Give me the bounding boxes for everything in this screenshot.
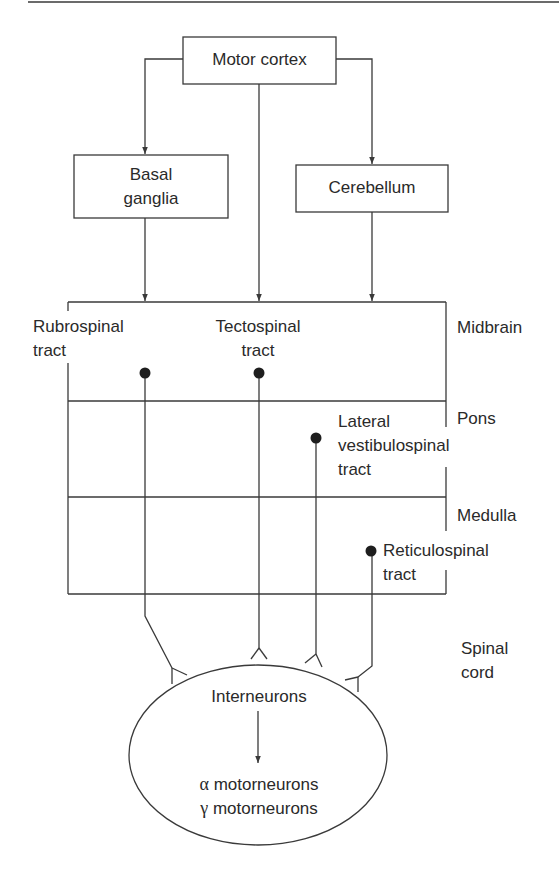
vestibulospinal-line3: tract [338, 458, 450, 482]
gamma-motorneurons-label: γ motorneurons [160, 796, 358, 821]
alpha-motorneurons-label: α motorneurons [160, 772, 358, 797]
basal-ganglia-line1: Basal [74, 163, 228, 187]
basal-ganglia-line2: ganglia [74, 187, 228, 211]
reticulospinal-label: Reticulospinal tract [383, 539, 489, 587]
tectospinal-line1: Tectospinal [198, 315, 318, 339]
reticulospinal-line1: Reticulospinal [383, 539, 489, 563]
region-medulla: Medulla [457, 504, 517, 528]
region-pons: Pons [457, 407, 496, 431]
rubrospinal-line2: tract [33, 339, 124, 363]
interneurons-label: Interneurons [178, 685, 340, 709]
rubrospinal-line1: Rubrospinal [33, 315, 124, 339]
diagram-lines [0, 0, 559, 878]
tectospinal-label: Tectospinal tract [198, 315, 318, 363]
vestibulospinal-label: Lateral vestibulospinal tract [338, 410, 450, 482]
region-spinal-cord: Spinal cord [461, 637, 508, 685]
vestibulospinal-line1: Lateral [338, 410, 450, 434]
motor-cortex-label: Motor cortex [183, 48, 336, 72]
alpha-text: motorneurons [214, 775, 319, 794]
cerebellum-label: Cerebellum [296, 176, 448, 200]
arrow-cortex-basal [145, 59, 183, 154]
alpha-symbol: α [199, 774, 208, 794]
rubrospinal-label: Rubrospinal tract [33, 315, 126, 363]
gamma-symbol: γ [200, 798, 208, 818]
gamma-text: motorneurons [213, 799, 318, 818]
tectospinal-soma [254, 368, 265, 379]
region-midbrain: Midbrain [457, 316, 522, 340]
reticulospinal-soma [366, 546, 377, 557]
spinal-cord-line1: Spinal [461, 637, 508, 661]
tectospinal-line2: tract [198, 339, 318, 363]
rubrospinal-soma [140, 368, 151, 379]
reticulospinal-axon [358, 551, 372, 677]
arrow-cortex-cerebellum [336, 59, 372, 164]
spinal-cord-line2: cord [461, 661, 508, 685]
vestibulospinal-line2: vestibulospinal [338, 434, 450, 458]
reticulospinal-line2: tract [383, 563, 489, 587]
rubrospinal-axon [145, 373, 172, 668]
basal-ganglia-label: Basal ganglia [74, 163, 228, 211]
vestibulospinal-soma [311, 433, 322, 444]
